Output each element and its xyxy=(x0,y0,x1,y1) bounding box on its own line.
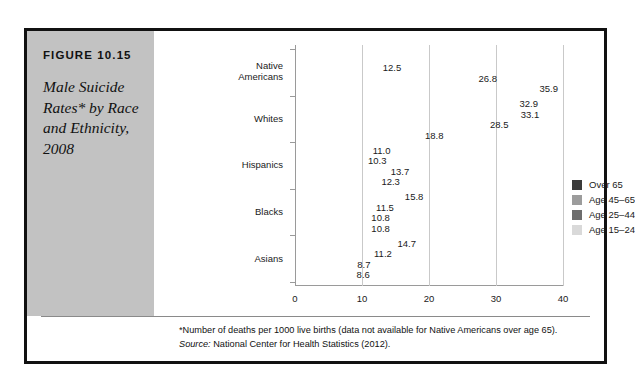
bar: 13.7 xyxy=(295,166,387,175)
bar-value-label: 14.7 xyxy=(397,237,416,248)
bar-value-label: 11.0 xyxy=(373,144,391,155)
x-tick-label: 40 xyxy=(558,293,569,304)
legend-swatch xyxy=(572,180,582,190)
legend-label: Over 65 xyxy=(589,179,623,190)
bar-value-label: 12.5 xyxy=(383,62,402,73)
bar: 14.7 xyxy=(295,238,393,247)
bar-value-label: 28.5 xyxy=(490,119,509,130)
bar: 11.2 xyxy=(295,249,370,258)
figure-upper: FIGURE 10.15 Male Suicide Rates* by Race… xyxy=(27,31,604,316)
legend-item: Over 65 xyxy=(572,179,635,190)
footnote-source: Source: National Center for Health Stati… xyxy=(179,338,588,351)
legend-label: Age 45–65 xyxy=(589,194,635,205)
bar-value-label: 13.7 xyxy=(391,165,410,176)
legend-swatch xyxy=(572,210,582,220)
bar-group: Asians14.711.28.78.6 xyxy=(295,235,563,282)
category-label: Blacks xyxy=(255,207,283,218)
bar: 26.8 xyxy=(295,73,475,82)
bar: 10.8 xyxy=(295,223,367,232)
category-label: Asians xyxy=(254,253,283,264)
legend-swatch xyxy=(572,225,582,235)
y-axis-tick xyxy=(290,282,295,283)
bar: 28.5 xyxy=(295,120,486,129)
y-axis-tick xyxy=(290,142,295,143)
bar-value-label: 8.6 xyxy=(357,269,370,280)
bar-value-label: 35.9 xyxy=(540,83,559,94)
bar-value-label: 8.7 xyxy=(357,258,370,269)
bar-value-label: 18.8 xyxy=(425,129,444,140)
bar-value-label: 10.8 xyxy=(371,212,390,223)
chart-legend: Over 65Age 45–65Age 25–44Age 15–24 xyxy=(572,179,635,239)
footnote-source-text: National Center for Health Statistics (2… xyxy=(211,339,391,349)
y-axis-tick xyxy=(290,235,295,236)
legend-item: Age 15–24 xyxy=(572,224,635,235)
category-label: Hispanics xyxy=(242,160,283,171)
chart-panel: 010203040 NativeAmericans12.526.835.9Whi… xyxy=(154,31,604,316)
y-axis-tick xyxy=(290,96,295,97)
figure-number: FIGURE 10.15 xyxy=(43,49,142,61)
figure-footnote: *Number of deaths per 1000 live births (… xyxy=(27,317,604,361)
bar-group: Hispanics11.010.313.712.3 xyxy=(295,142,563,189)
bar-value-label: 26.8 xyxy=(479,72,498,83)
legend-label: Age 15–24 xyxy=(589,224,635,235)
plot-area: 010203040 NativeAmericans12.526.835.9Whi… xyxy=(295,49,563,282)
bar-value-label: 12.3 xyxy=(381,176,400,187)
footnote-source-label: Source: xyxy=(179,339,211,349)
figure-container: FIGURE 10.15 Male Suicide Rates* by Race… xyxy=(24,28,607,364)
figure-title: Male Suicide Rates* by Race and Ethnicit… xyxy=(43,77,142,159)
y-axis-tick xyxy=(290,189,295,190)
figure-caption-panel: FIGURE 10.15 Male Suicide Rates* by Race… xyxy=(27,31,154,316)
bar: 11.0 xyxy=(295,145,369,154)
gridline xyxy=(563,45,564,286)
bar: 10.8 xyxy=(295,213,367,222)
bar: 11.5 xyxy=(295,202,372,211)
footnote-note: *Number of deaths per 1000 live births (… xyxy=(179,324,588,337)
x-tick-label: 20 xyxy=(424,293,435,304)
legend-item: Age 45–65 xyxy=(572,194,635,205)
legend-label: Age 25–44 xyxy=(589,209,635,220)
y-axis-tick xyxy=(290,49,295,50)
bar-value-label: 10.3 xyxy=(368,155,387,166)
bar-group: Whites32.933.128.518.8 xyxy=(295,96,563,143)
bar-value-label: 32.9 xyxy=(519,98,538,109)
bar-value-label: 11.5 xyxy=(376,201,394,212)
legend-item: Age 25–44 xyxy=(572,209,635,220)
legend-swatch xyxy=(572,195,582,205)
bar: 12.5 xyxy=(295,63,379,72)
bar: 32.9 xyxy=(295,99,515,108)
category-label: Whites xyxy=(254,113,283,124)
bar-group: NativeAmericans12.526.835.9 xyxy=(295,49,563,96)
bar: 8.7 xyxy=(295,259,353,268)
x-tick-label: 10 xyxy=(357,293,368,304)
bar-value-label: 11.2 xyxy=(374,248,392,259)
bar: 33.1 xyxy=(295,109,517,118)
bar-value-label: 15.8 xyxy=(405,191,424,202)
bar: 8.6 xyxy=(295,270,353,279)
bar-group: Blacks15.811.510.810.8 xyxy=(295,189,563,236)
bar: 35.9 xyxy=(295,84,536,93)
bar-value-label: 33.1 xyxy=(521,108,540,119)
bar: 15.8 xyxy=(295,192,401,201)
bar: 10.3 xyxy=(295,156,364,165)
bar: 18.8 xyxy=(295,130,421,139)
bar: 12.3 xyxy=(295,177,377,186)
bar-value-label: 10.8 xyxy=(371,222,390,233)
x-tick-label: 30 xyxy=(491,293,502,304)
x-tick-label: 0 xyxy=(292,293,297,304)
category-label: NativeAmericans xyxy=(238,61,283,83)
